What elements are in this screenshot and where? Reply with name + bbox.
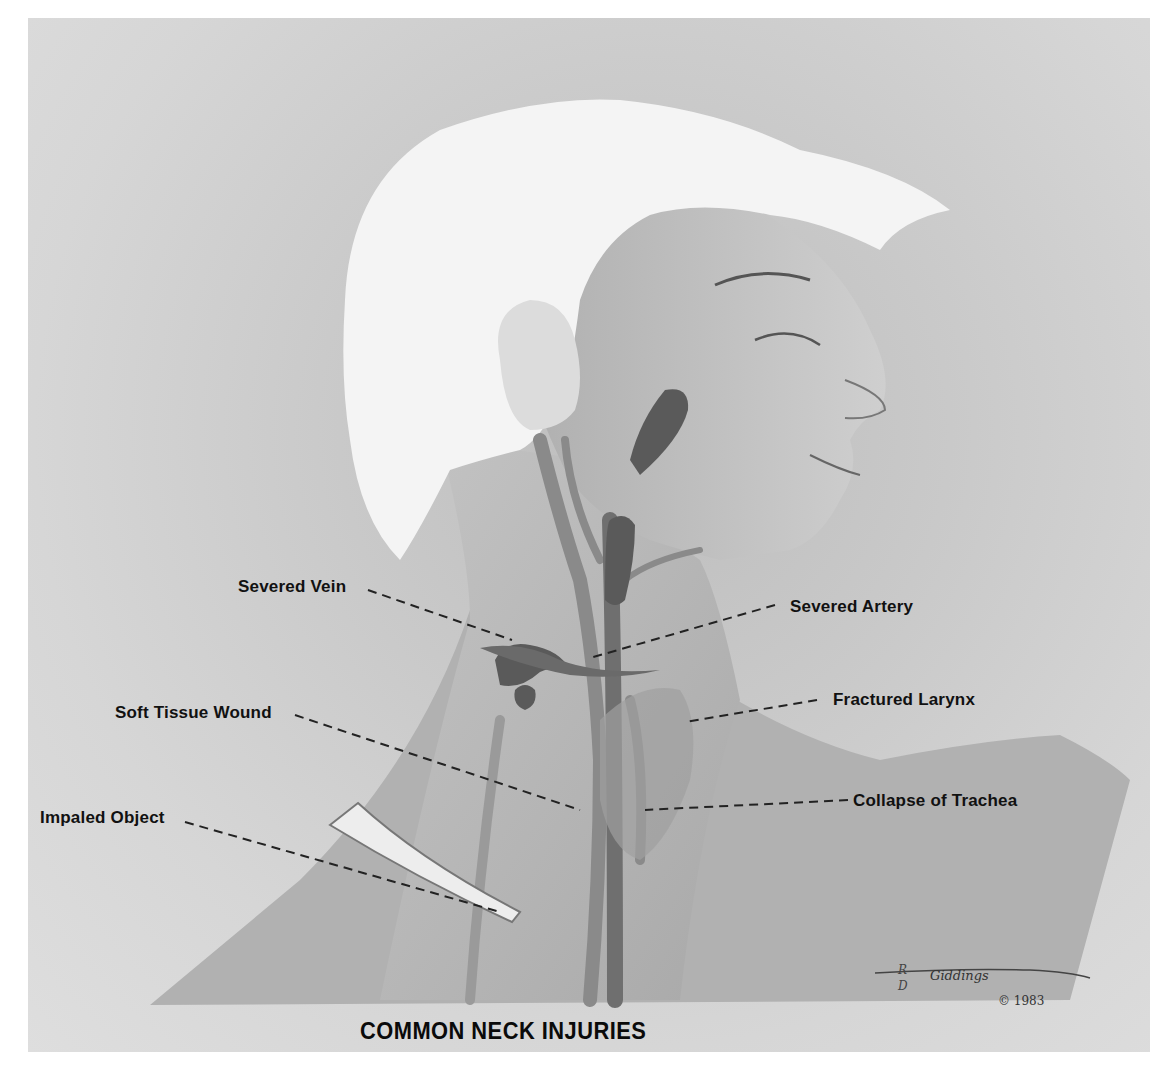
initial-top: R (898, 962, 908, 978)
label-impaled-object: Impaled Object (40, 808, 165, 828)
label-soft-tissue-wound: Soft Tissue Wound (115, 703, 272, 723)
figure-title: COMMON NECK INJURIES (360, 1018, 646, 1045)
neck-injury-illustration (0, 0, 1176, 1071)
artist-initials: R D (898, 962, 908, 994)
initial-bottom: D (898, 978, 908, 994)
label-severed-artery: Severed Artery (790, 597, 913, 617)
label-severed-vein: Severed Vein (238, 577, 346, 597)
copyright-notice: © 1983 (998, 994, 1044, 1008)
artist-signature: Giddings (930, 968, 989, 983)
label-fractured-larynx: Fractured Larynx (833, 690, 975, 710)
label-collapse-of-trachea: Collapse of Trachea (853, 791, 1017, 811)
